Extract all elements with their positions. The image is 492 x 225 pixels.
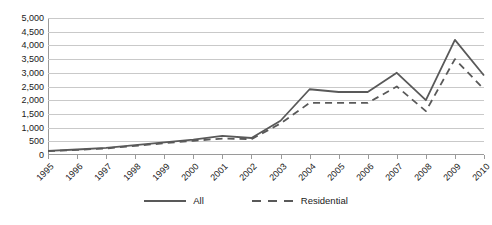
- y-axis-tick-label: 2,000: [0, 96, 44, 105]
- y-axis-tick-label: 3,000: [0, 68, 44, 77]
- x-axis-tick: [193, 155, 194, 159]
- x-axis-tick-label: 1998: [119, 161, 143, 185]
- x-axis-tick: [397, 155, 398, 159]
- x-axis-tick: [426, 155, 427, 159]
- x-axis-tick-label: 2006: [351, 161, 375, 185]
- x-axis-tick-label: 2009: [439, 161, 463, 185]
- y-axis-tick-label: 500: [0, 137, 44, 146]
- x-axis-tick: [222, 155, 223, 159]
- x-axis-tick: [484, 155, 485, 159]
- x-axis-tick-label: 2004: [293, 161, 317, 185]
- y-axis-tick-label: 0: [0, 151, 44, 160]
- series-line-residential: [48, 59, 484, 151]
- chart-legend: All Residential: [0, 196, 492, 206]
- x-axis-tick: [164, 155, 165, 159]
- y-axis-tick-label: 2,500: [0, 82, 44, 91]
- y-axis-tick-label: 3,500: [0, 55, 44, 64]
- x-axis-tick-label: 1995: [32, 161, 56, 185]
- x-axis-tick-label: 1997: [90, 161, 114, 185]
- x-axis-tick-label: 2010: [468, 161, 492, 185]
- legend-line-dashed-icon: [252, 196, 294, 206]
- x-axis-tick: [106, 155, 107, 159]
- x-axis-tick-label: 2003: [264, 161, 288, 185]
- x-axis-tick: [368, 155, 369, 159]
- legend-label-residential: Residential: [301, 196, 348, 206]
- legend-item-residential: Residential: [252, 196, 348, 206]
- legend-label-all: All: [193, 196, 204, 206]
- y-axis-tick-label: 4,000: [0, 41, 44, 50]
- x-axis-tick: [281, 155, 282, 159]
- x-axis-tick-label: 2005: [322, 161, 346, 185]
- y-axis-tick-label: 1,500: [0, 109, 44, 118]
- x-axis-tick-label: 2000: [177, 161, 201, 185]
- series-lines: [48, 18, 484, 155]
- legend-line-solid-icon: [144, 196, 186, 206]
- x-axis-tick-label: 1999: [148, 161, 172, 185]
- x-axis-tick-label: 2007: [380, 161, 404, 185]
- x-axis-tick-label: 1996: [61, 161, 85, 185]
- x-axis-tick: [339, 155, 340, 159]
- legend-item-all: All: [144, 196, 204, 206]
- x-axis-labels: 1995199619971998199920002001200220032004…: [48, 160, 484, 192]
- x-axis-tick: [48, 155, 49, 159]
- y-axis-tick-label: 4,500: [0, 27, 44, 36]
- x-axis-tick: [310, 155, 311, 159]
- y-axis-labels: 05001,0001,5002,0002,5003,0003,5004,0004…: [0, 18, 44, 155]
- x-axis-tick-label: 2008: [409, 161, 433, 185]
- y-axis-tick-label: 5,000: [0, 14, 44, 23]
- x-axis-tick: [77, 155, 78, 159]
- y-axis-tick-label: 1,000: [0, 123, 44, 132]
- x-axis-tick: [455, 155, 456, 159]
- x-axis-tick: [135, 155, 136, 159]
- x-axis-tick-label: 2002: [235, 161, 259, 185]
- plot-area: [48, 18, 484, 155]
- line-chart: 05001,0001,5002,0002,5003,0003,5004,0004…: [0, 0, 492, 225]
- x-axis-tick-label: 2001: [206, 161, 230, 185]
- series-line-all: [48, 40, 484, 151]
- x-axis-tick: [251, 155, 252, 159]
